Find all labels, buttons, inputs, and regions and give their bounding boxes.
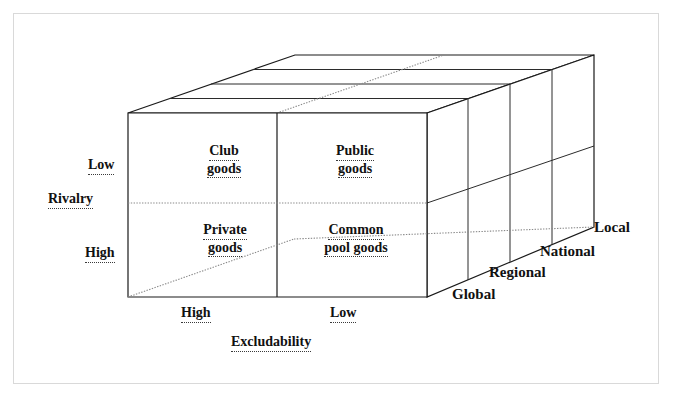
axis-tick-excludability-high: High (181, 305, 211, 323)
cell-label-private-goods: Private goods (170, 222, 280, 257)
axis-tick-rivalry-high: High (85, 245, 115, 263)
axis-tick-rivalry-low: Low (88, 157, 114, 175)
diagram-page: Club goods Public goods Private goods Co… (0, 0, 675, 403)
common-pool-goods-line1: Common (328, 222, 383, 240)
club-goods-line1: Club (209, 143, 239, 161)
depth-label-local: Local (594, 219, 630, 236)
axis-title-rivalry: Rivalry (48, 191, 93, 209)
depth-label-regional: Regional (489, 264, 546, 281)
private-goods-line1: Private (203, 222, 247, 240)
club-goods-line2: goods (207, 161, 241, 179)
private-goods-line2: goods (208, 240, 242, 258)
common-pool-goods-line2: pool goods (324, 240, 387, 258)
public-goods-line1: Public (336, 143, 374, 161)
depth-label-national: National (540, 243, 595, 260)
depth-label-global: Global (452, 286, 495, 303)
cell-label-common-pool-goods: Common pool goods (291, 222, 421, 257)
axis-tick-excludability-low: Low (330, 305, 356, 323)
cube-diagram-svg (0, 0, 675, 403)
cell-label-club-goods: Club goods (176, 143, 272, 178)
cell-label-public-goods: Public goods (300, 143, 410, 178)
public-goods-line2: goods (338, 161, 372, 179)
axis-title-excludability: Excludability (231, 334, 311, 352)
